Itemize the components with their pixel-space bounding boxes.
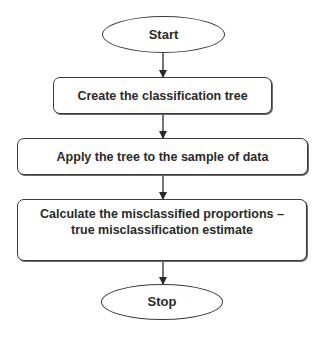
apply-tree-label: Apply the tree to the sample of data — [57, 149, 269, 165]
calculate-label-line1: Calculate the misclassified proportions … — [40, 206, 284, 222]
create-tree-step: Create the classification tree — [53, 77, 272, 114]
calculate-misclassification-step: Calculate the misclassified proportions … — [17, 199, 307, 261]
create-tree-label: Create the classification tree — [77, 88, 247, 104]
calculate-label-line2: true misclassification estimate — [71, 222, 253, 238]
stop-label: Stop — [148, 294, 177, 310]
apply-tree-step: Apply the tree to the sample of data — [17, 138, 308, 175]
flowchart-canvas: Start Create the classification tree App… — [0, 0, 333, 338]
stop-node: Stop — [101, 284, 223, 320]
start-label: Start — [149, 27, 179, 43]
start-node: Start — [102, 16, 225, 53]
